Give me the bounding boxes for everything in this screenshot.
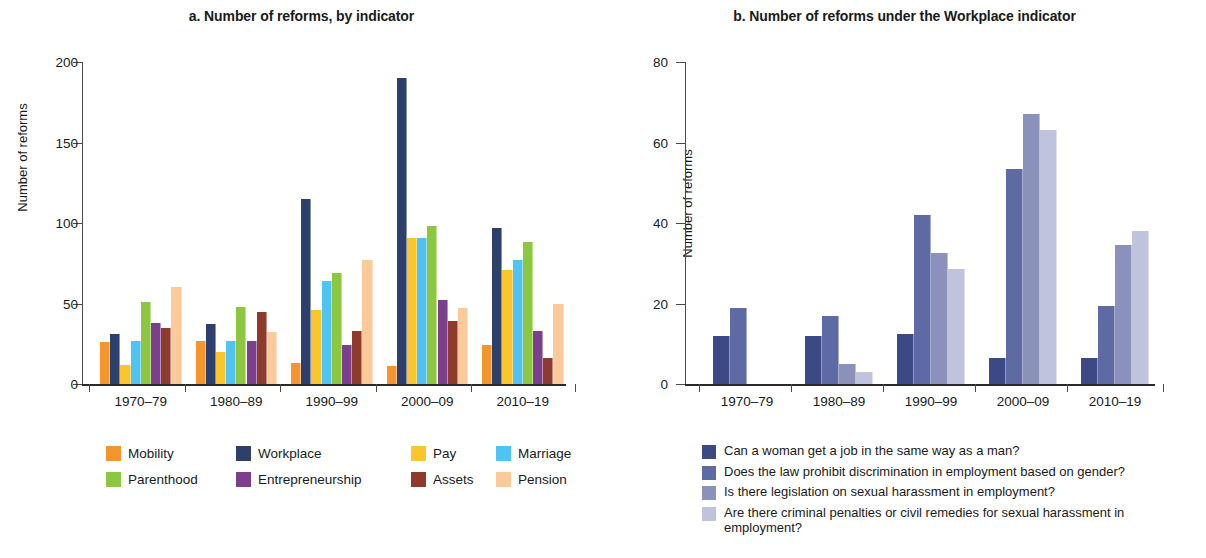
panel-a-plot-area: 1970–791980–891990–992000–092010–19	[82, 62, 566, 384]
bar	[502, 270, 512, 384]
bar	[856, 372, 873, 384]
bar	[1132, 231, 1149, 384]
panel-a-y-axis	[82, 62, 83, 384]
panel-a-y-axis-label: Number of reforms	[15, 83, 30, 233]
y-tick-label: 50	[44, 296, 78, 311]
bar-group	[100, 62, 182, 384]
x-tick-label: 1970–79	[721, 394, 774, 409]
bar	[311, 310, 321, 384]
bar	[247, 341, 257, 384]
legend-item-1[interactable]: Can a woman get a job in the same way as…	[702, 443, 1202, 459]
bar-group	[1081, 62, 1149, 384]
bar	[1098, 306, 1115, 384]
legend-swatch-icon	[702, 445, 716, 459]
y-tick-label: 40	[640, 216, 668, 231]
legend-item-3[interactable]: Is there legislation on sexual harassmen…	[702, 484, 1202, 500]
bar	[332, 273, 342, 384]
legend-label: Assets	[433, 472, 474, 487]
bar	[362, 260, 372, 384]
bar	[448, 321, 458, 384]
legend-item-pension[interactable]: Pension	[496, 472, 596, 487]
legend-label: Pension	[518, 472, 567, 487]
y-tick	[676, 62, 685, 63]
bar	[417, 238, 427, 385]
legend-item-marriage[interactable]: Marriage	[496, 446, 596, 461]
bar	[397, 78, 407, 384]
bar	[989, 358, 1006, 384]
bar	[257, 312, 267, 384]
legend-item-2[interactable]: Does the law prohibit discrimination in …	[702, 464, 1202, 480]
bar	[1040, 130, 1057, 384]
legend-item-parenthood[interactable]: Parenthood	[106, 472, 236, 487]
y-tick	[676, 384, 685, 385]
x-tick-label: 2000–09	[401, 394, 454, 409]
bar	[1006, 169, 1023, 384]
legend-label: Workplace	[258, 446, 322, 461]
bar	[120, 365, 130, 384]
bar	[948, 269, 965, 384]
bar	[543, 358, 553, 384]
x-tick	[185, 384, 186, 392]
x-tick	[575, 384, 576, 392]
panel-b-y-axis	[685, 62, 686, 384]
legend-label: Parenthood	[128, 472, 198, 487]
bar	[427, 226, 437, 384]
bar	[458, 308, 468, 384]
x-tick-label: 1980–89	[210, 394, 263, 409]
legend-swatch-icon	[702, 486, 716, 500]
bar	[141, 302, 151, 384]
bar	[482, 345, 492, 384]
x-tick-label: 1970–79	[115, 394, 168, 409]
legend-item-mobility[interactable]: Mobility	[106, 446, 236, 461]
legend-swatch-icon	[702, 507, 716, 521]
bar	[171, 287, 181, 384]
bar	[387, 366, 397, 384]
legend-label: Marriage	[518, 446, 571, 461]
panel-b-title: b. Number of reforms under the Workplace…	[603, 8, 1206, 24]
bar	[438, 300, 448, 384]
legend-item-4[interactable]: Are there criminal penalties or civil re…	[702, 505, 1202, 535]
bar	[713, 336, 730, 384]
panel-a-x-tick-labels: 1970–791980–891990–992000–092010–19	[82, 384, 566, 414]
bar-group	[989, 62, 1057, 384]
legend-item-assets[interactable]: Assets	[411, 472, 496, 487]
x-tick	[376, 384, 377, 392]
bar	[100, 342, 110, 384]
y-tick-label: 200	[44, 55, 78, 70]
y-tick-label: 80	[640, 55, 668, 70]
x-tick	[1163, 384, 1164, 392]
legend-swatch-icon	[411, 472, 426, 487]
bar	[1023, 114, 1040, 384]
bar	[1081, 358, 1098, 384]
legend-swatch-icon	[496, 446, 511, 461]
bar	[1115, 245, 1132, 384]
bar	[322, 281, 332, 384]
panel-b-legend: Can a woman get a job in the same way as…	[702, 443, 1202, 539]
bar	[730, 308, 747, 384]
legend-swatch-icon	[236, 446, 251, 461]
legend-item-workplace[interactable]: Workplace	[236, 446, 411, 461]
bar	[151, 323, 161, 384]
bar	[492, 228, 502, 384]
legend-item-pay[interactable]: Pay	[411, 446, 496, 461]
panel-a-legend: MobilityWorkplacePayMarriageParenthoodEn…	[106, 440, 596, 492]
legend-item-entrepreneurship[interactable]: Entrepreneurship	[236, 472, 411, 487]
bar	[291, 363, 301, 384]
panel-b-plot-area: 1970–791980–891990–992000–092010–19	[685, 62, 1155, 384]
x-tick	[89, 384, 90, 392]
x-tick	[699, 384, 700, 392]
bar	[206, 324, 216, 384]
bar	[352, 331, 362, 384]
x-tick-label: 1980–89	[813, 394, 866, 409]
bar	[301, 199, 311, 384]
legend-swatch-icon	[106, 446, 121, 461]
y-tick-label: 0	[640, 377, 668, 392]
bar	[226, 341, 236, 384]
y-tick-label: 100	[44, 216, 78, 231]
x-tick	[1067, 384, 1068, 392]
legend-label: Pay	[433, 446, 456, 461]
panel-b-x-tick-labels: 1970–791980–891990–992000–092010–19	[685, 384, 1155, 414]
bar	[342, 345, 352, 384]
x-tick-label: 1990–99	[306, 394, 359, 409]
bar-group	[196, 62, 278, 384]
